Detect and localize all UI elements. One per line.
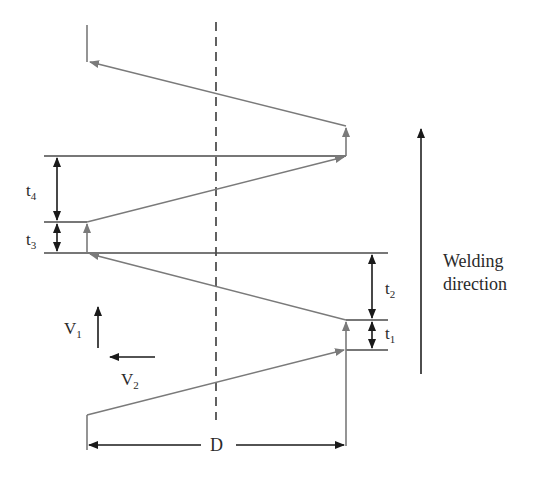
welding-direction-label-line2: direction	[443, 274, 507, 294]
t1-label: t1	[385, 324, 395, 345]
welding-direction-label-line1: Welding	[443, 251, 504, 271]
weaving-diagram: t4 t3 t2 t1 V1 V2 D Welding direction	[0, 0, 537, 481]
v2-label: V2	[121, 370, 139, 391]
t2-label: t2	[385, 279, 395, 300]
dimension-arrows	[57, 158, 372, 445]
d-label: D	[210, 435, 223, 455]
t3-label: t3	[26, 230, 37, 251]
v1-label: V1	[64, 319, 82, 340]
t4-label: t4	[26, 181, 37, 202]
reference-lines	[44, 156, 388, 350]
